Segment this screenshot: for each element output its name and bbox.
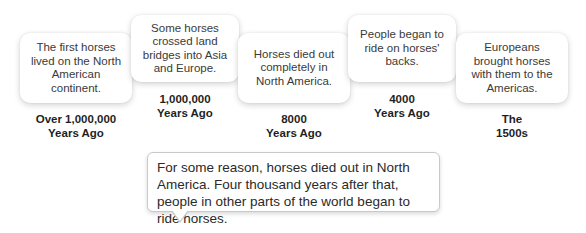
date-line: Years Ago <box>131 106 239 120</box>
date-line: Over 1,000,000 <box>20 112 132 126</box>
date-line: Years Ago <box>238 126 350 140</box>
timeline-date-1: Over 1,000,000 Years Ago <box>20 112 132 140</box>
callout-text: For some reason, horses died out in Nort… <box>157 160 410 226</box>
timeline-date-2: 1,000,000 Years Ago <box>131 92 239 120</box>
event-description: Europeans brought horses with them to th… <box>470 41 554 95</box>
timeline-card-5: Europeans brought horses with them to th… <box>456 33 568 103</box>
timeline-card-3: Horses died out completely in North Amer… <box>238 33 350 103</box>
timeline-date-4: 4000 Years Ago <box>348 92 456 120</box>
event-description: People began to ride on horses' backs. <box>358 28 446 69</box>
date-line: Years Ago <box>20 126 132 140</box>
timeline-date-3: 8000 Years Ago <box>238 112 350 140</box>
date-line: The <box>456 112 568 126</box>
event-description: Some horses crossed land bridges into As… <box>137 22 233 76</box>
timeline-date-5: The 1500s <box>456 112 568 140</box>
date-line: 4000 <box>348 92 456 106</box>
speech-callout: For some reason, horses died out in Nort… <box>147 152 440 212</box>
event-description: The first horses lived on the North Amer… <box>30 41 122 95</box>
date-line: 8000 <box>238 112 350 126</box>
timeline-card-2: Some horses crossed land bridges into As… <box>131 15 239 82</box>
timeline-card-1: The first horses lived on the North Amer… <box>20 33 132 103</box>
date-line: 1500s <box>456 126 568 140</box>
date-line: 1,000,000 <box>131 92 239 106</box>
callout-tail-fill <box>172 210 188 221</box>
date-line: Years Ago <box>348 106 456 120</box>
timeline-card-4: People began to ride on horses' backs. <box>348 15 456 82</box>
event-description: Horses died out completely in North Amer… <box>246 48 342 89</box>
